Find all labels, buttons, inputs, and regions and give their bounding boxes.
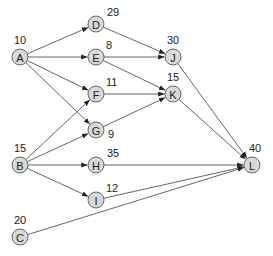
edge-j-l xyxy=(178,63,247,158)
node-a: A10 xyxy=(12,34,28,65)
node-value-label: 30 xyxy=(167,34,179,46)
node-k: K15 xyxy=(165,71,181,102)
edge-i-l xyxy=(104,167,244,198)
node-label: A xyxy=(16,52,24,64)
node-label: H xyxy=(92,160,100,172)
edge-g-k xyxy=(103,98,165,127)
node-label: I xyxy=(94,195,97,207)
node-label: J xyxy=(170,52,176,64)
node-i: I12 xyxy=(88,182,118,208)
node-value-label: 40 xyxy=(249,142,261,154)
edge-b-f xyxy=(26,100,90,160)
node-value-label: 11 xyxy=(106,76,117,88)
node-value-label: 8 xyxy=(106,39,112,51)
network-diagram: A10B15C20D29E8F11G9H35I12J30K15L40 xyxy=(0,0,273,256)
node-d: D29 xyxy=(88,6,119,32)
edge-a-g xyxy=(26,63,90,125)
node-value-label: 29 xyxy=(107,6,119,18)
node-value-label: 15 xyxy=(167,71,179,83)
node-value-label: 35 xyxy=(107,147,119,159)
edge-a-d xyxy=(27,27,88,53)
node-value-label: 20 xyxy=(14,214,26,226)
node-label: L xyxy=(249,160,255,172)
edge-k-l xyxy=(179,99,246,159)
node-c: C20 xyxy=(12,214,28,245)
node-h: H35 xyxy=(88,147,119,173)
node-label: G xyxy=(92,125,101,137)
node-label: K xyxy=(169,89,177,101)
node-label: F xyxy=(93,89,100,101)
edge-c-l xyxy=(28,168,244,235)
node-f: F11 xyxy=(88,76,117,102)
edge-b-g xyxy=(27,134,88,162)
edge-b-i xyxy=(27,168,88,196)
node-g: G9 xyxy=(88,122,114,140)
node-value-label: 9 xyxy=(108,128,114,140)
node-label: B xyxy=(16,160,23,172)
node-label: C xyxy=(16,232,24,244)
node-value-label: 12 xyxy=(106,182,118,194)
node-j: J30 xyxy=(165,34,181,65)
edge-a-f xyxy=(27,61,88,91)
node-label: E xyxy=(92,52,99,64)
node-e: E8 xyxy=(88,39,112,65)
node-value-label: 15 xyxy=(14,142,26,154)
node-label: D xyxy=(92,19,100,31)
edges-layer xyxy=(26,27,247,234)
node-b: B15 xyxy=(12,142,28,173)
edge-d-j xyxy=(103,27,165,54)
node-value-label: 10 xyxy=(14,34,26,46)
